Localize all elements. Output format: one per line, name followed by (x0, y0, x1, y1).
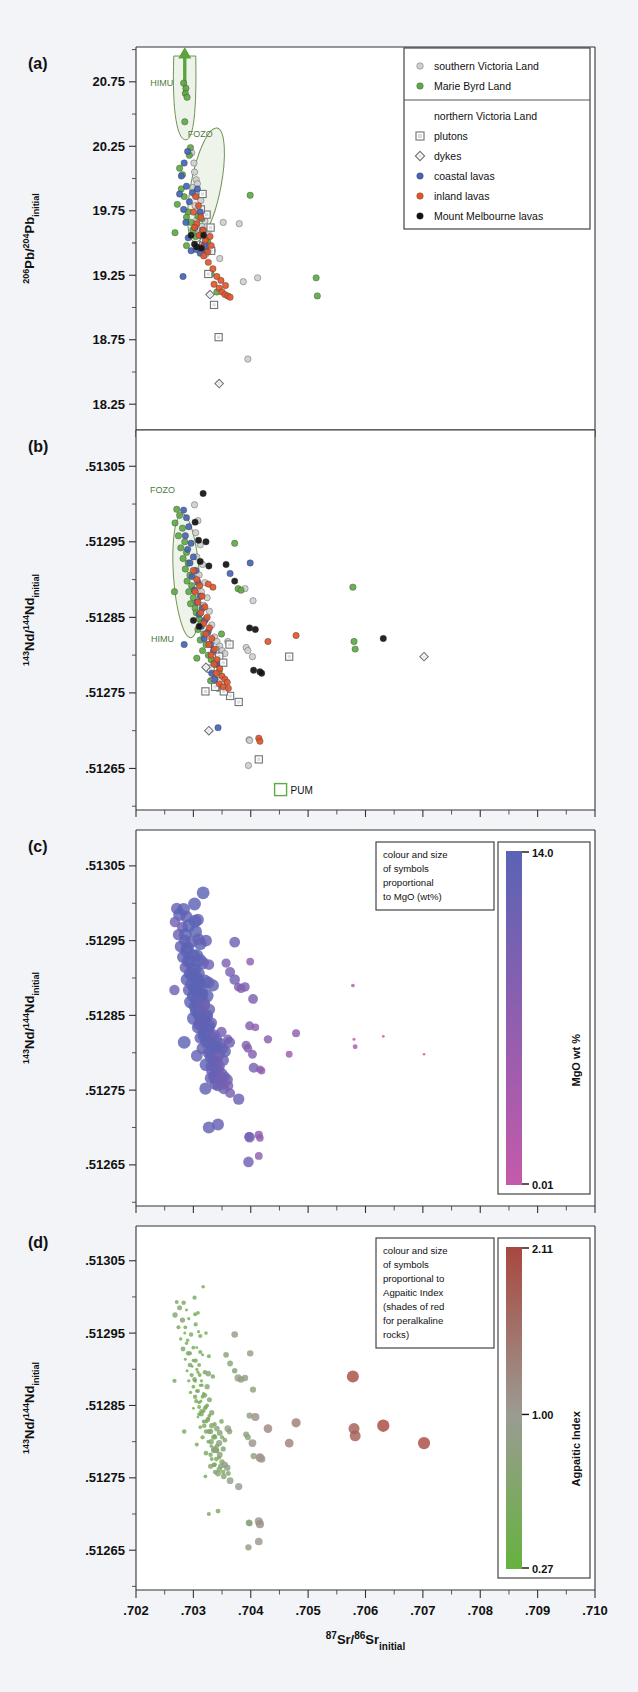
data-point-circle (182, 539, 188, 545)
data-point-scaled (250, 1453, 256, 1459)
data-point-circle (180, 273, 186, 279)
data-point-scaled (229, 937, 240, 948)
data-point-circle (257, 738, 263, 744)
legend-symbol-plutons-fill (418, 134, 422, 138)
panel-label-c: (c) (28, 838, 48, 855)
y-tick-label-d: .51295 (85, 1326, 125, 1341)
data-point-circle (194, 186, 200, 192)
data-point-scaled (208, 1452, 212, 1456)
data-point-circle (211, 646, 217, 652)
data-point-scaled (247, 1350, 253, 1356)
data-point-scaled (213, 1434, 217, 1438)
data-point-circle (171, 588, 177, 594)
data-point-circle (223, 561, 229, 567)
data-point-circle (195, 537, 201, 543)
data-point-circle (184, 148, 190, 154)
data-point-circle (178, 173, 184, 179)
data-point-circle (245, 647, 251, 653)
legend-label-mount-melbourne-lavas: Mount Melbourne lavas (434, 210, 543, 222)
data-point-circle (245, 356, 251, 362)
data-point-scaled (347, 1371, 359, 1383)
data-point-scaled (191, 1050, 203, 1062)
data-point-scaled (197, 1330, 200, 1333)
data-point-scaled (197, 886, 210, 899)
data-point-scaled (251, 1413, 259, 1421)
colorbar-note-line-c: to MgO (wt%) (383, 891, 442, 902)
data-point-scaled (180, 1317, 185, 1322)
data-point-scaled (229, 974, 240, 985)
data-point-circle (211, 661, 217, 667)
data-point-scaled (179, 1337, 182, 1340)
colorbar-note-line-c: colour and size (383, 849, 448, 860)
data-point-scaled (172, 1379, 176, 1383)
legend-label-southern-victoria-land: southern Victoria Land (434, 60, 539, 72)
data-point-scaled (193, 1395, 197, 1399)
data-point-circle (201, 232, 207, 238)
data-point-circle (179, 525, 185, 531)
data-point-scaled (200, 1435, 204, 1439)
legend-box[interactable] (404, 48, 590, 229)
data-point-square-fill (209, 226, 212, 229)
annotation-himu-b: HIMU (151, 634, 174, 644)
data-point-scaled (256, 1520, 264, 1528)
x-tick-label: .705 (295, 1603, 320, 1618)
data-point-scaled (189, 915, 202, 928)
data-point-circle (202, 604, 208, 610)
figure-root: (a)20.7520.2519.7519.2518.7518.25206Pb/2… (0, 0, 638, 1692)
data-point-scaled (227, 1429, 233, 1435)
data-point-scaled (227, 1361, 233, 1367)
data-point-square-fill (228, 643, 231, 646)
data-point-scaled (198, 1350, 202, 1354)
data-point-scaled (193, 1312, 197, 1316)
data-point-scaled (207, 1512, 211, 1516)
data-point-scaled (249, 1439, 257, 1447)
data-point-scaled (186, 1369, 189, 1372)
data-point-circle (208, 242, 214, 248)
data-point-scaled (251, 1023, 259, 1031)
annotation-fozo-b: FOZO (150, 485, 175, 495)
data-point-circle (240, 279, 246, 285)
data-point-circle (191, 224, 197, 230)
data-point-circle (181, 160, 187, 166)
data-point-scaled (188, 1351, 192, 1355)
data-point-circle (201, 253, 207, 259)
data-point-scaled (216, 1027, 226, 1037)
figure-svg: (a)20.7520.2519.7519.2518.7518.25206Pb/2… (0, 0, 638, 1692)
data-point-circle (188, 540, 194, 546)
data-point-square-fill (237, 700, 240, 703)
data-point-square-fill (205, 213, 208, 216)
data-point-circle (380, 635, 386, 641)
data-point-circle (245, 762, 251, 768)
data-point-scaled (191, 1346, 195, 1350)
data-point-scaled (212, 1463, 217, 1468)
colorbar-mid-label-d: 1.00 (532, 1409, 553, 1421)
data-point-scaled (204, 1451, 209, 1456)
data-point-scaled (192, 1296, 196, 1300)
y-tick-label-b: .51305 (85, 459, 125, 474)
colorbar-note-line-d: (shades of red (383, 1301, 444, 1312)
legend-symbol-coastal-lavas (417, 173, 424, 180)
data-point-circle (220, 219, 226, 225)
data-point-scaled (187, 1379, 190, 1382)
colorbar-max-label-d: 2.11 (532, 1243, 553, 1255)
y-tick-label-a: 18.25 (92, 397, 125, 412)
data-point-scaled (352, 1038, 355, 1041)
data-point-scaled (193, 1379, 197, 1383)
data-point-scaled (231, 1331, 238, 1338)
data-point-scaled (224, 1464, 231, 1471)
data-point-circle (254, 275, 260, 281)
data-point-circle (227, 570, 233, 576)
data-point-circle (205, 259, 211, 265)
data-point-circle (203, 631, 209, 637)
data-point-circle (198, 610, 204, 616)
data-point-circle (183, 183, 189, 189)
data-point-scaled (206, 1429, 211, 1434)
data-point-scaled (219, 1419, 224, 1424)
data-point-scaled (189, 1332, 193, 1336)
y-tick-label-d: .51275 (85, 1470, 125, 1485)
legend-label-plutons: plutons (434, 130, 468, 142)
data-point-scaled (190, 1373, 194, 1377)
data-point-scaled (246, 958, 254, 966)
data-point-circle (210, 266, 216, 272)
data-point-scaled (197, 1363, 201, 1367)
